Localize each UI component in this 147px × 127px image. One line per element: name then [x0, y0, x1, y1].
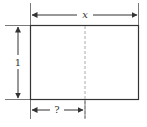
height-label: 1	[15, 57, 21, 68]
left-dimension: 1	[5, 26, 30, 100]
top-dimension: x	[31, 3, 139, 25]
diagram-canvas: x 1 ?	[0, 0, 147, 127]
width-label: x	[82, 9, 88, 20]
bottom-dimension: ?	[31, 100, 86, 119]
unknown-label: ?	[54, 104, 59, 115]
